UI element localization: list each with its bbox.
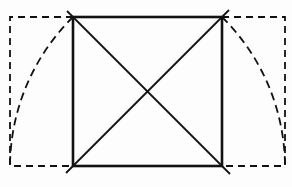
diagram-svg	[0, 0, 292, 187]
left-dashed-arc	[10, 17, 73, 166]
diagram-canvas: Square with diagonals and rotated-diagon…	[0, 0, 292, 187]
right-dashed-arc	[222, 17, 285, 166]
right-dashed-rectangle	[222, 17, 285, 166]
left-dashed-rectangle	[10, 17, 73, 166]
diagonal-top-left-to-bottom-right	[67, 11, 230, 174]
